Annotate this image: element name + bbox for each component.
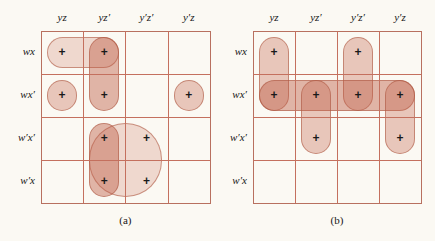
grid-line-horizontal <box>41 160 211 161</box>
grid-line-vertical <box>168 31 169 203</box>
row-label-b-0: wx <box>207 45 247 57</box>
grid-line-vertical <box>379 31 380 203</box>
group-wxp-ypz <box>174 80 204 111</box>
column-header-b-2: y′z′ <box>337 11 379 23</box>
row-label-b-3: w′x <box>207 174 247 186</box>
grid-line-vertical <box>421 31 422 203</box>
column-header-b-0: yz <box>253 11 295 23</box>
grid-line-horizontal <box>253 160 422 161</box>
caption-b: (b) <box>253 214 421 226</box>
grid-line-vertical <box>210 31 211 203</box>
column-header-b-1: yz′ <box>295 11 337 23</box>
grid-line-horizontal <box>253 203 422 204</box>
group-wxp-yz <box>47 80 77 111</box>
grid-line-horizontal <box>253 117 422 118</box>
row-label-b-2: w′x′ <box>207 131 247 143</box>
column-header-b-3: y′z <box>379 11 421 23</box>
grid-line-horizontal <box>41 203 211 204</box>
row-label-b-1: wx′ <box>207 88 247 100</box>
grid-line-horizontal <box>41 117 211 118</box>
figure-root: yzyz′y′z′y′zwxwx′w′x′w′x+++++++++(a)yzyz… <box>0 0 435 241</box>
